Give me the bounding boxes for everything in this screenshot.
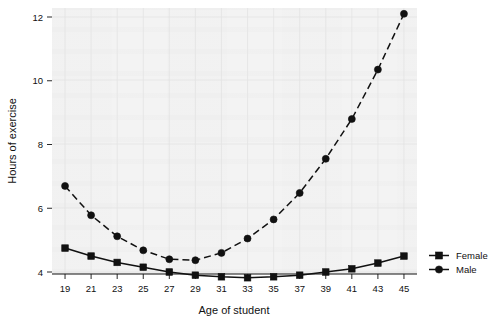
y-tick-label: 12	[32, 12, 43, 23]
male-data-point[interactable]	[88, 212, 95, 219]
x-tick-label: 31	[216, 283, 227, 294]
female-data-point[interactable]	[166, 269, 173, 276]
female-data-point[interactable]	[62, 245, 69, 252]
female-data-point[interactable]	[322, 269, 329, 276]
x-tick-label: 23	[112, 283, 123, 294]
y-tick-label: 6	[38, 203, 43, 214]
x-tick-label: 43	[373, 283, 384, 294]
exercise-by-age-line-chart: 4681012 1921232527293133353739414345 Age…	[0, 0, 503, 328]
female-data-point[interactable]	[349, 266, 356, 273]
y-tick-label: 4	[38, 267, 43, 278]
legend-item-male[interactable]: Male	[429, 264, 477, 275]
circle-marker-icon	[435, 266, 442, 273]
legend-item-female[interactable]: Female	[429, 250, 488, 261]
x-tick-label: 37	[294, 283, 305, 294]
x-tick-label: 25	[138, 283, 149, 294]
female-data-point[interactable]	[88, 253, 95, 260]
legend-male-label: Male	[456, 264, 477, 275]
chart-legend: Female Male	[429, 250, 488, 275]
x-tick-label: 35	[268, 283, 279, 294]
x-tick-label: 41	[347, 283, 358, 294]
female-data-point[interactable]	[296, 272, 303, 279]
x-tick-label: 21	[86, 283, 97, 294]
male-data-point[interactable]	[114, 233, 121, 240]
female-data-point[interactable]	[218, 273, 225, 280]
x-tick-label: 33	[242, 283, 253, 294]
male-data-point[interactable]	[400, 10, 407, 17]
male-data-point[interactable]	[140, 247, 147, 254]
chart-svg: 4681012 1921232527293133353739414345 Age…	[0, 0, 503, 328]
y-tick-label: 10	[32, 75, 43, 86]
female-data-point[interactable]	[270, 273, 277, 280]
x-axis-title: Age of student	[199, 304, 270, 316]
male-data-point[interactable]	[270, 216, 277, 223]
x-tick-label: 19	[60, 283, 71, 294]
y-tick-label: 8	[38, 139, 43, 150]
male-data-point[interactable]	[322, 155, 329, 162]
female-data-point[interactable]	[375, 260, 382, 267]
x-tick-label: 29	[190, 283, 201, 294]
male-data-point[interactable]	[244, 235, 251, 242]
x-tick-label: 39	[320, 283, 331, 294]
male-data-point[interactable]	[296, 189, 303, 196]
plot-area-background	[52, 8, 417, 274]
male-data-point[interactable]	[348, 116, 355, 123]
x-tick-label: 27	[164, 283, 175, 294]
female-data-point[interactable]	[114, 259, 121, 266]
male-data-point[interactable]	[374, 66, 381, 73]
male-data-point[interactable]	[192, 257, 199, 264]
female-data-point[interactable]	[140, 264, 147, 271]
y-axis-title: Hours of exercise	[6, 98, 18, 184]
female-data-point[interactable]	[401, 253, 408, 260]
male-data-point[interactable]	[62, 182, 69, 189]
female-data-point[interactable]	[244, 274, 251, 281]
male-data-point[interactable]	[218, 249, 225, 256]
y-axis-ticks: 4681012	[32, 12, 52, 278]
female-data-point[interactable]	[192, 272, 199, 279]
male-data-point[interactable]	[166, 256, 173, 263]
square-marker-icon	[436, 252, 443, 259]
x-tick-label: 45	[399, 283, 410, 294]
legend-female-label: Female	[456, 250, 488, 261]
